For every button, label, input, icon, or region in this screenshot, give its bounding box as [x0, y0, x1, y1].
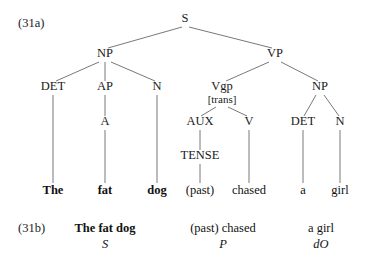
tree-node-det1: DET [41, 79, 66, 93]
tree-node-vgpfeat: [trans] [208, 93, 237, 105]
tree-node-s: S [182, 11, 189, 25]
tree-terminal-a: a [300, 183, 306, 197]
tree-terminal-chased: chased [232, 183, 267, 197]
tree-node-np1: NP [97, 46, 113, 60]
tree-node-np2: NP [312, 79, 328, 93]
tree-node-det2: DET [291, 114, 316, 128]
syntax-tree-canvas: SNPVPDETAPNVgp[trans]NPAAUXVDETNTENSE Th… [0, 0, 367, 259]
syntax-tree-figure: SNPVPDETAPNVgp[trans]NPAAUXVDETNTENSE Th… [0, 0, 367, 259]
tree-terminals: Thefatdog(past)chasedagirl [43, 183, 350, 197]
tree-node-tense: TENSE [181, 148, 220, 162]
figure-labels: (31a) [18, 16, 44, 30]
tree-terminal-fat: fat [98, 183, 113, 197]
tree-node-a: A [100, 114, 109, 128]
tree-node-vp: VP [267, 46, 283, 60]
tree-branch-np1-to-n1 [111, 62, 155, 81]
tree-terminal-past: (past) [186, 183, 214, 197]
tree-terminal-girl: girl [331, 183, 349, 197]
example-label-31b: (31b) [18, 221, 45, 235]
gloss-phrase-subject: The fat dog [74, 221, 136, 235]
gloss-phrase-predicator: (past) chased [190, 221, 256, 235]
tree-branch-s-to-np1 [108, 27, 182, 48]
tree-node-v: V [244, 114, 253, 128]
tree-node-vgp: Vgp [211, 79, 233, 93]
tree-node-aux: AUX [186, 114, 213, 128]
tree-nodes: SNPVPDETAPNVgp[trans]NPAAUXVDETNTENSE [41, 11, 345, 162]
gloss-function-predicator: P [218, 237, 227, 251]
gloss-row: (31b)The fat dogS(past) chasedPa girldO [18, 221, 335, 251]
tree-branch-np2-to-det2 [304, 95, 316, 116]
tree-branch-np2-to-n2 [324, 95, 339, 116]
tree-node-n1: N [152, 79, 161, 93]
tree-node-n2: N [335, 114, 344, 128]
tree-branch-s-to-vp [189, 27, 272, 48]
gloss-function-direct-object: dO [313, 237, 328, 251]
example-label-31a: (31a) [18, 16, 44, 30]
tree-node-ap: AP [97, 79, 113, 93]
tree-terminal-the: The [43, 183, 64, 197]
gloss-phrase-direct-object: a girl [308, 221, 335, 235]
gloss-function-subject: S [102, 237, 109, 251]
tree-terminal-dog: dog [147, 183, 167, 197]
